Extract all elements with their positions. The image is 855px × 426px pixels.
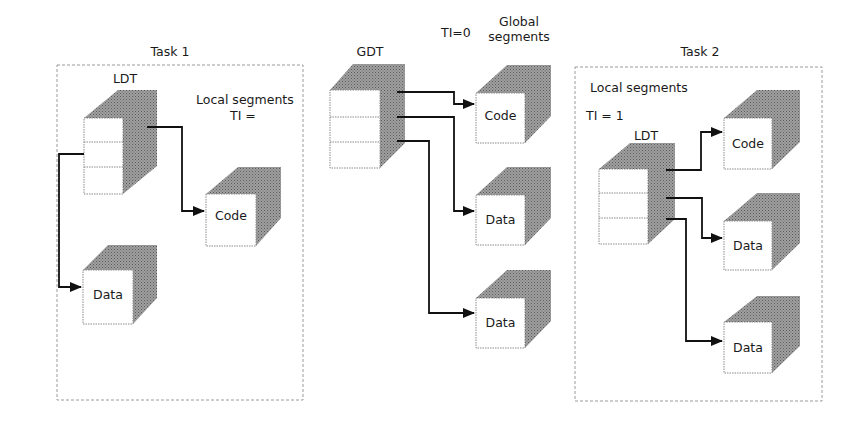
task2-title: Task 2 <box>660 45 740 59</box>
task2-data-segment-cube-2 <box>724 296 800 373</box>
task1-arrow-to-data <box>59 154 84 287</box>
task2-ldt-label: LDT <box>626 129 666 143</box>
task1-data-segment-cube <box>83 245 157 324</box>
global-data-label-1: Data <box>476 213 525 227</box>
gdt-arrow-to-data-2 <box>397 141 474 313</box>
global-code-label: Code <box>476 109 525 123</box>
task1-title: Task 1 <box>130 45 210 59</box>
task2-ti-label: TI = 1 <box>586 109 624 123</box>
task1-data-label: Data <box>83 288 133 302</box>
global-segments-label-line1: Global <box>484 15 554 29</box>
task2-data-label-2: Data <box>724 341 772 355</box>
task2-local-segments-label: Local segments <box>590 81 688 95</box>
task1-ti-label: TI = <box>230 109 256 123</box>
global-code-segment-cube <box>476 65 551 143</box>
task1-code-label: Code <box>206 209 256 223</box>
global-data-segment-cube-1 <box>476 167 551 245</box>
global-data-label-2: Data <box>476 316 525 330</box>
global-segments-label-line2: segments <box>484 30 554 44</box>
task2-code-segment-cube <box>724 90 800 169</box>
gdt-cube <box>330 64 405 168</box>
task1-ldt-label: LDT <box>105 72 145 86</box>
task1-ldt-cube <box>84 90 157 194</box>
task1-code-segment-cube <box>206 167 281 246</box>
task1-local-segments-label: Local segments <box>196 93 294 107</box>
task2-ldt-cube <box>599 143 675 244</box>
gdt-label: GDT <box>345 45 395 59</box>
task2-code-label: Code <box>724 137 772 151</box>
task2-data-label-1: Data <box>724 239 772 253</box>
descriptor-table-diagram <box>0 0 855 426</box>
global-data-segment-cube-2 <box>476 270 551 348</box>
gdt-arrow-to-code <box>397 92 474 104</box>
global-ti-label: TI=0 <box>441 26 471 40</box>
gdt-arrow-to-data-1 <box>397 117 474 211</box>
task2-data-segment-cube-1 <box>724 193 800 270</box>
